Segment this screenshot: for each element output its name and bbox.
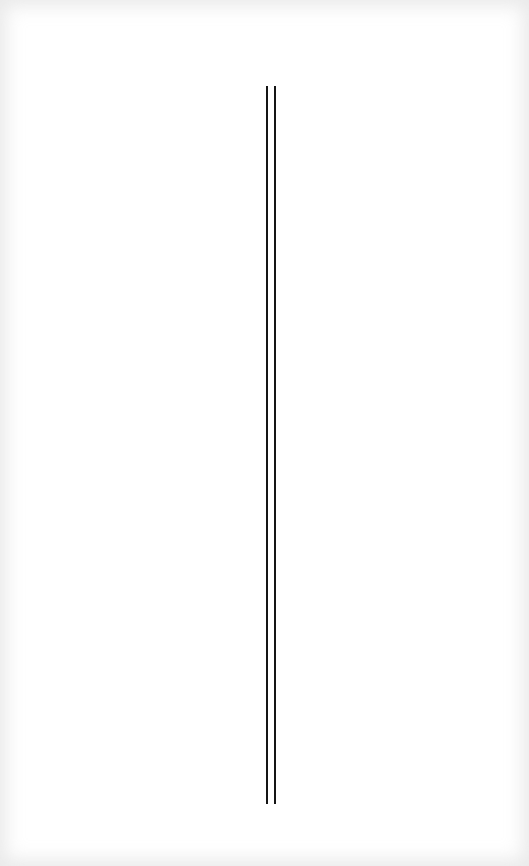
edge-vignette [0,0,529,866]
blank-page [0,0,529,866]
left-vertical-rule [266,86,268,804]
right-vertical-rule [274,86,276,804]
